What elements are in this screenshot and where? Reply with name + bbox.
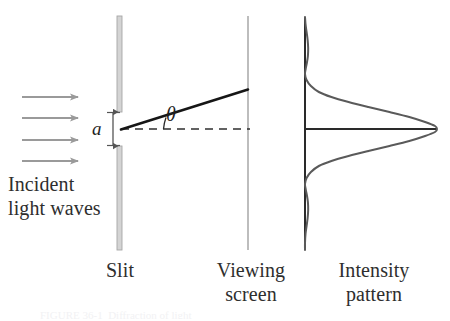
intensity-pattern-label: Intensity pattern bbox=[318, 258, 430, 306]
diffracted-ray bbox=[121, 90, 248, 130]
cropped-caption-fragment: FIGURE 36-1 Diffraction of light bbox=[40, 309, 290, 319]
slit-label: Slit bbox=[84, 258, 156, 282]
barrier-lower-bar bbox=[117, 146, 122, 250]
intensity-curve bbox=[305, 17, 437, 250]
slit-barrier bbox=[117, 16, 122, 250]
intensity-axes bbox=[305, 17, 437, 250]
incident-wave-arrows bbox=[22, 97, 78, 161]
barrier-upper-bar bbox=[117, 16, 122, 112]
incident-light-waves-label: Incident light waves bbox=[8, 172, 101, 220]
single-slit-diffraction-figure: Incident light waves Slit Viewing screen… bbox=[0, 0, 450, 321]
theta-angle-symbol-label: θ bbox=[166, 103, 176, 126]
viewing-screen-label: Viewing screen bbox=[196, 258, 306, 306]
slit-width-dimension bbox=[107, 112, 120, 146]
slit-width-symbol-label: a bbox=[92, 118, 102, 140]
